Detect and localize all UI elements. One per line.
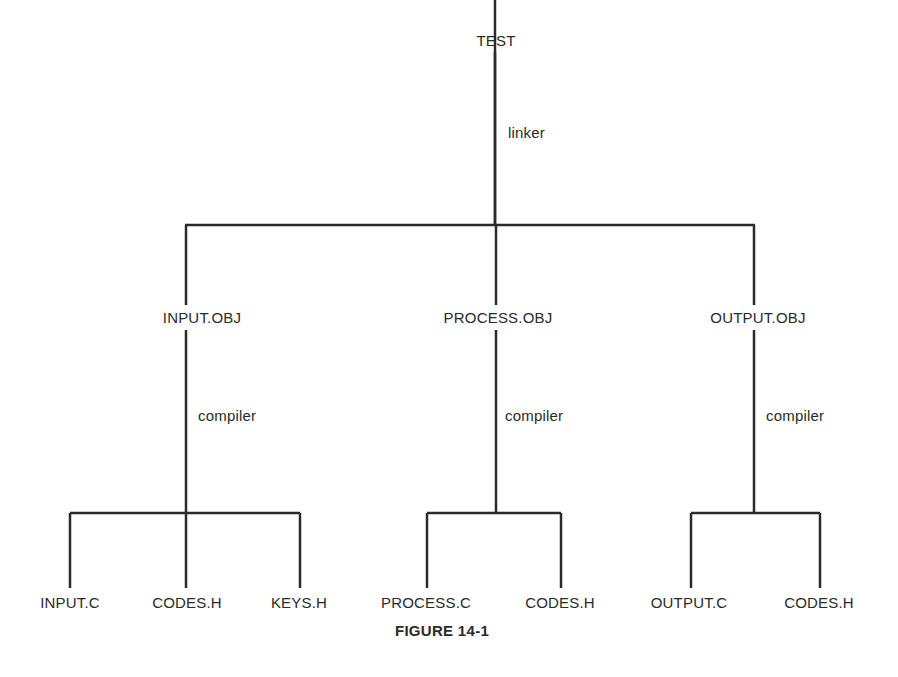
node-codes-h-input: CODES.H xyxy=(152,594,222,611)
node-process-c: PROCESS.C xyxy=(381,594,471,611)
node-output-obj: OUTPUT.OBJ xyxy=(710,309,805,326)
node-codes-h-process: CODES.H xyxy=(525,594,595,611)
edge-label-linker: linker xyxy=(508,124,545,141)
edge-label-compiler-input: compiler xyxy=(198,407,256,424)
figure-caption: FIGURE 14-1 xyxy=(395,622,489,639)
node-input-c: INPUT.C xyxy=(40,594,100,611)
node-test: TEST xyxy=(476,32,515,49)
node-input-obj: INPUT.OBJ xyxy=(163,309,241,326)
edge-label-compiler-output: compiler xyxy=(766,407,824,424)
tree-connectors xyxy=(0,0,898,677)
node-output-c: OUTPUT.C xyxy=(651,594,728,611)
node-keys-h: KEYS.H xyxy=(271,594,327,611)
edge-label-compiler-process: compiler xyxy=(505,407,563,424)
node-process-obj: PROCESS.OBJ xyxy=(444,309,553,326)
node-codes-h-output: CODES.H xyxy=(784,594,854,611)
